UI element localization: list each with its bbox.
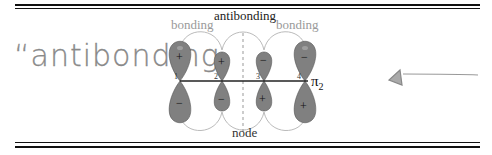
- atom4-bottom-sign: +: [300, 99, 307, 114]
- atom1-top-sign: +: [176, 50, 183, 65]
- orbital-label: π2: [311, 73, 324, 92]
- atom2-top-sign: +: [218, 55, 225, 70]
- atom3-bottom-sign: +: [259, 92, 266, 107]
- bottom-rule-thin: [15, 142, 480, 143]
- atom2-bottom-sign: −: [218, 92, 225, 107]
- atom4-top-sign: −: [301, 50, 308, 65]
- atom3-top-sign: −: [260, 53, 267, 68]
- atom3-number: 3: [256, 72, 260, 81]
- atom2-number: 2: [214, 72, 218, 81]
- atom1-number: 1: [174, 72, 178, 81]
- bottom-rule-thick: [15, 146, 480, 148]
- pi-symbol: π: [311, 73, 319, 89]
- left-arrow-icon: [389, 70, 478, 85]
- atom4-number: 4: [297, 72, 301, 81]
- node-label: node: [232, 125, 257, 141]
- atom1-bottom-sign: −: [176, 96, 183, 111]
- pi-subscript: 2: [319, 81, 324, 92]
